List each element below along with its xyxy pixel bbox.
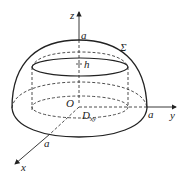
diagram-canvas: z a Σ h O Dxy a y a x bbox=[0, 0, 184, 178]
surface-label: Σ bbox=[120, 42, 127, 53]
y-axis-label: y bbox=[170, 110, 175, 121]
x-radius-label: a bbox=[44, 138, 50, 149]
height-label: h bbox=[84, 59, 90, 70]
base-front bbox=[12, 108, 147, 137]
y-radius-label: a bbox=[148, 109, 154, 120]
region-label: Dxy bbox=[82, 110, 96, 123]
hemisphere-figure bbox=[0, 0, 184, 178]
z-axis-label: z bbox=[70, 10, 74, 21]
x-axis-label: x bbox=[21, 162, 26, 173]
cap-ellipse bbox=[32, 58, 128, 76]
origin-label: O bbox=[66, 98, 74, 109]
top-radius-label: a bbox=[81, 30, 87, 41]
